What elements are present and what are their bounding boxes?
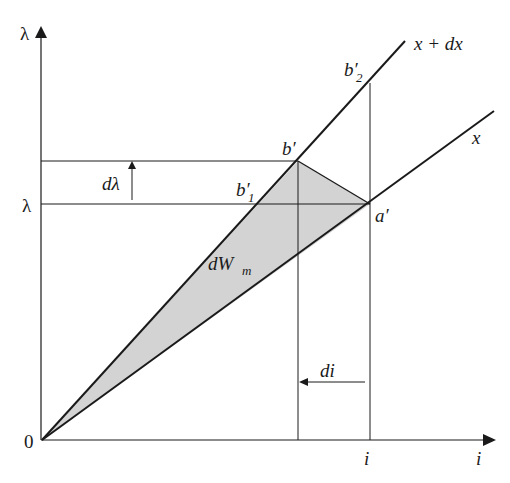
i-axis-label: i (476, 448, 481, 469)
di-label: di (320, 360, 335, 381)
curve-x-label: x (471, 127, 481, 148)
svg-text:m: m (242, 263, 251, 278)
dwm-shaded-region (42, 161, 370, 440)
i-axis-arrow-icon (483, 434, 496, 446)
di-arrow-icon (299, 378, 308, 386)
curve-x (42, 111, 494, 440)
curve-x-plus-dx-label: x + dx (413, 33, 463, 54)
svg-text:2: 2 (356, 70, 363, 85)
diagram-canvas: λ λ dλ 0 i i di x + dx x b′ a′ b′ 1 b′ 2… (0, 0, 510, 483)
origin-label: 0 (24, 431, 34, 452)
dlambda-arrow-icon (128, 161, 136, 169)
lambda-axis-label: λ (20, 23, 30, 44)
dlambda-label: dλ (102, 173, 120, 194)
point-b2-prime-label: b′ 2 (344, 59, 363, 85)
point-b1-prime-label: b′ 1 (236, 179, 255, 205)
point-a-prime-label: a′ (375, 205, 390, 226)
curve-x-plus-dx (42, 41, 405, 440)
svg-text:1: 1 (248, 190, 255, 205)
point-b-prime-label: b′ (282, 138, 297, 159)
i-tick-label: i (364, 448, 369, 469)
svg-text:dW: dW (208, 253, 236, 274)
lambda-level-label: λ (22, 195, 32, 216)
lambda-axis-arrow-icon (35, 26, 47, 38)
